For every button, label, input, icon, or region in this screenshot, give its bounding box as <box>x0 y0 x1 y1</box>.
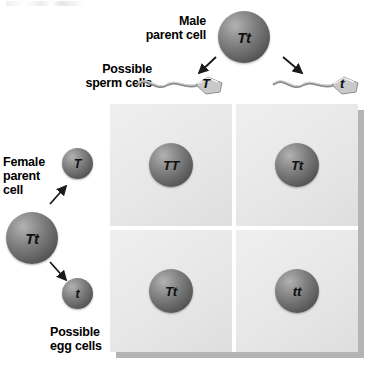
punnett-cell-TT: TT <box>110 104 232 226</box>
scan-artifact <box>6 1 84 6</box>
sperm-cell-t-allele: t <box>340 76 344 91</box>
female-parent-cell: Tt <box>6 212 58 264</box>
male-parent-genotype: Tt <box>237 29 251 46</box>
sperm-cell-t: t <box>272 72 371 98</box>
offspring-genotype-Tt-bottom: Tt <box>165 284 177 299</box>
sperm-cell-T-shape <box>136 72 236 98</box>
sperm-cell-T: T <box>136 72 236 98</box>
offspring-genotype-TT: TT <box>163 158 179 173</box>
punnett-square: TT Tt Tt tt <box>110 104 358 352</box>
female-parent-genotype: Tt <box>25 230 39 247</box>
punnett-cell-Tt-bottom: Tt <box>110 230 232 352</box>
punnett-square-grid: TT Tt Tt tt <box>110 104 358 352</box>
offspring-genotype-tt: tt <box>293 284 301 299</box>
arrow-female-to-egg-t <box>50 262 66 280</box>
arrow-male-to-sperm-t <box>283 57 302 73</box>
arrow-male-to-sperm-T <box>199 57 216 73</box>
sperm-cell-T-allele: T <box>202 76 210 91</box>
male-parent-cell-label: Male parent cell <box>118 14 206 42</box>
egg-cell-T-allele: T <box>74 157 81 171</box>
offspring-cell-TT: TT <box>149 143 193 187</box>
egg-cell-t-allele: t <box>76 287 80 301</box>
punnett-cell-Tt-top: Tt <box>236 104 358 226</box>
offspring-genotype-Tt-top: Tt <box>291 158 303 173</box>
offspring-cell-tt: tt <box>275 269 319 313</box>
egg-cell-t: t <box>62 278 93 309</box>
punnett-cell-tt: tt <box>236 230 358 352</box>
sperm-cell-t-shape <box>272 72 371 98</box>
offspring-cell-Tt-top: Tt <box>275 143 319 187</box>
egg-cell-T: T <box>62 148 93 179</box>
male-parent-cell: Tt <box>218 11 270 63</box>
offspring-cell-Tt-bottom: Tt <box>149 269 193 313</box>
punnett-square-figure: Male parent cell Possible sperm cells Fe… <box>0 0 371 368</box>
